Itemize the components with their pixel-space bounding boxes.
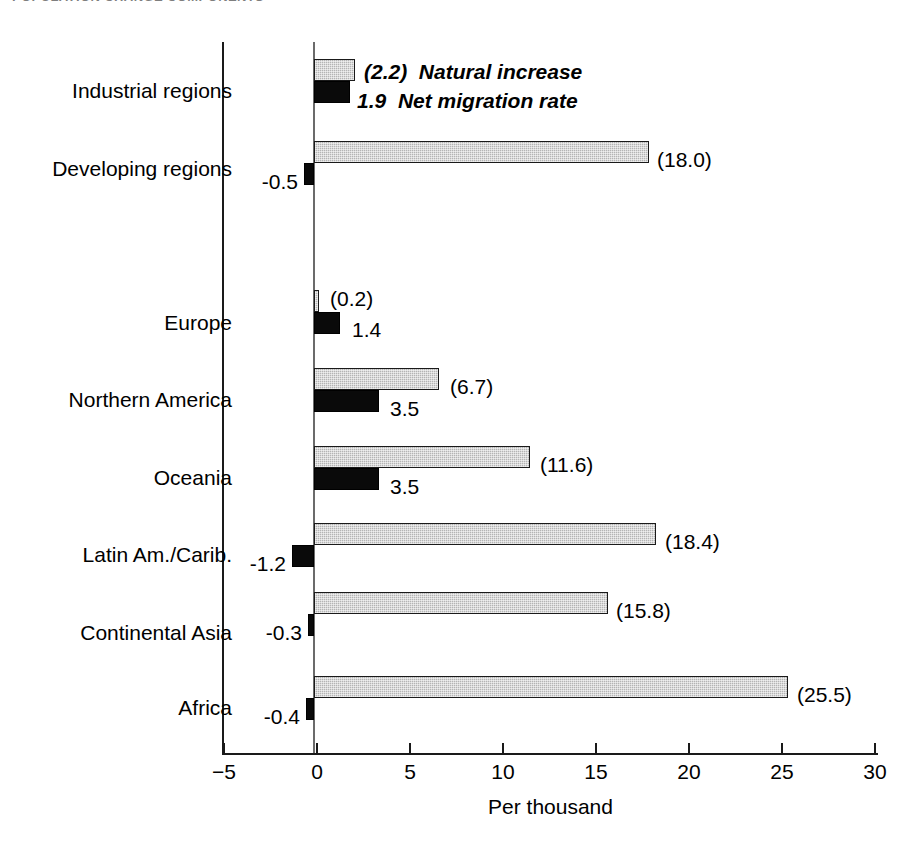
axis-tick-label: 25 — [752, 760, 812, 784]
value-label-natural-increase: (18.4) — [665, 530, 720, 554]
value-label-net-migration: -1.2 — [186, 552, 286, 576]
bar-natural-increase — [314, 446, 530, 468]
value-label-net-migration: -0.4 — [200, 705, 300, 729]
axis-tick — [688, 743, 690, 755]
value-label-net-migration: -0.5 — [198, 170, 298, 194]
category-label-continental-asia: Continental Asia — [0, 621, 232, 645]
category-label-industrial-regions: Industrial regions — [0, 79, 232, 103]
bar-net-migration — [314, 312, 340, 334]
legend-natural-label: Natural increase — [419, 60, 582, 83]
axis-tick — [502, 743, 504, 755]
axis-tick-label: 10 — [473, 760, 533, 784]
bar-net-migration — [314, 81, 350, 103]
value-label-natural-increase: (25.5) — [797, 683, 852, 707]
x-axis-title-wrap: Per thousand — [0, 795, 913, 819]
value-label-net-migration: -0.3 — [202, 621, 302, 645]
category-label-europe: Europe — [0, 311, 232, 335]
legend-net-migration: 1.9 Net migration rate — [357, 89, 578, 113]
legend-migration-value: 1.9 — [357, 89, 386, 112]
bar-natural-increase — [314, 676, 788, 698]
axis-tick — [409, 743, 411, 755]
value-label-net-migration: 1.4 — [352, 318, 381, 342]
bar-natural-increase — [314, 592, 608, 614]
axis-tick-label: 0 — [287, 760, 347, 784]
bar-net-migration — [306, 698, 314, 720]
axis-tick — [316, 743, 318, 755]
value-label-natural-increase: (0.2) — [330, 287, 373, 311]
bar-net-migration — [314, 468, 379, 490]
axis-tick — [874, 743, 876, 755]
bar-natural-increase — [314, 368, 439, 390]
bar-net-migration — [308, 614, 314, 636]
value-label-natural-increase: (11.6) — [540, 453, 593, 477]
population-change-bar-chart: −5 0 5 10 15 20 25 30 Per thousand Indus… — [0, 0, 913, 853]
bar-net-migration — [314, 390, 379, 412]
bar-natural-increase — [314, 141, 649, 163]
axis-tick-label: 20 — [659, 760, 719, 784]
axis-tick — [223, 743, 225, 755]
bar-net-migration — [304, 163, 314, 185]
category-label-oceania: Oceania — [0, 466, 232, 490]
legend-migration-label: Net migration rate — [398, 89, 578, 112]
bar-natural-increase — [314, 59, 355, 81]
x-axis-title: Per thousand — [488, 795, 613, 818]
axis-tick — [595, 743, 597, 755]
legend-natural-increase: (2.2) Natural increase — [364, 60, 582, 84]
bar-net-migration — [292, 545, 314, 567]
value-label-net-migration: 3.5 — [390, 475, 419, 499]
value-axis-line — [222, 753, 878, 755]
bar-natural-increase — [314, 523, 656, 545]
bar-natural-increase — [314, 290, 319, 312]
axis-tick-label: 15 — [566, 760, 626, 784]
axis-tick-label: −5 — [194, 760, 254, 784]
value-label-net-migration: 3.5 — [390, 397, 419, 421]
axis-tick-label: 5 — [380, 760, 440, 784]
value-label-natural-increase: (18.0) — [657, 148, 712, 172]
axis-tick-label: 30 — [845, 760, 905, 784]
axis-tick — [781, 743, 783, 755]
value-label-natural-increase: (6.7) — [450, 375, 493, 399]
category-label-northern-america: Northern America — [0, 388, 232, 412]
value-label-natural-increase: (15.8) — [616, 599, 671, 623]
legend-natural-value: (2.2) — [364, 60, 407, 83]
category-label-africa: Africa — [0, 696, 232, 720]
